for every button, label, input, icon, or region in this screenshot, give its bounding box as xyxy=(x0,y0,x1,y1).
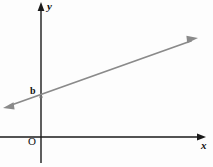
function-line xyxy=(3,36,198,110)
x-axis-label: x xyxy=(201,140,207,151)
y-axis-arrow-icon xyxy=(38,2,45,11)
y-intercept-marker xyxy=(39,95,42,98)
y-axis xyxy=(38,2,45,163)
y-axis-label: y xyxy=(47,1,52,12)
line-right-arrow-icon xyxy=(186,36,198,43)
y-intercept-label: b xyxy=(30,86,36,96)
origin-label: O xyxy=(28,136,36,147)
graph-figure: y x O b xyxy=(0,0,213,167)
line-left-arrow-icon xyxy=(3,102,15,109)
